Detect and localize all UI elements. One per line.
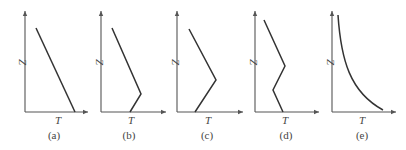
t-axis-label: T (205, 114, 212, 126)
panel-a: Z T (a) (17, 11, 88, 142)
panel-caption: (b) (123, 129, 136, 142)
profile-line (112, 28, 141, 112)
panel-e: Z T (e) (325, 11, 396, 142)
z-axis-label: Z (17, 59, 29, 66)
t-axis-label: T (55, 114, 62, 126)
t-axis-label: T (282, 114, 289, 126)
panel-caption: (a) (48, 129, 61, 142)
profile-curve (338, 15, 383, 110)
profile-line (264, 20, 285, 112)
panel-b: Z T (b) (94, 11, 166, 142)
z-axis-label: Z (94, 59, 106, 66)
t-axis-label: T (359, 114, 366, 126)
panel-caption: (e) (356, 129, 369, 142)
panel-caption: (d) (280, 129, 293, 142)
profile-line (189, 29, 216, 112)
z-axis-label: Z (248, 59, 260, 66)
panel-c: Z T (c) (170, 11, 243, 142)
panel-d: Z T (d) (248, 11, 319, 142)
panel-caption: (c) (201, 129, 214, 142)
z-axis-label: Z (325, 59, 337, 66)
profile-line (36, 28, 75, 112)
figure-canvas: Z T (a) Z T (b) Z T (c) Z T (0, 0, 406, 150)
t-axis-label: T (128, 114, 135, 126)
z-axis-label: Z (170, 59, 182, 66)
temperature-profile-figure: Z T (a) Z T (b) Z T (c) Z T (0, 0, 406, 150)
